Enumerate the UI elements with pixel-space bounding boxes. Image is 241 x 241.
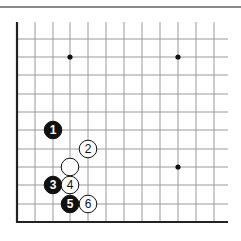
white-stone bbox=[61, 158, 79, 176]
star-point bbox=[175, 54, 180, 59]
black-stone: 1 bbox=[44, 121, 62, 139]
move-number: 6 bbox=[85, 197, 92, 211]
star-point bbox=[175, 164, 180, 169]
white-stone: 2 bbox=[79, 140, 97, 158]
move-number: 5 bbox=[67, 197, 74, 211]
white-stone: 6 bbox=[79, 195, 97, 213]
star-point bbox=[67, 54, 72, 59]
move-number: 3 bbox=[50, 178, 57, 192]
go-board: 123456 bbox=[0, 0, 241, 241]
move-number: 2 bbox=[85, 142, 92, 156]
white-stone: 4 bbox=[61, 176, 79, 194]
move-number: 1 bbox=[50, 123, 57, 137]
black-stone: 3 bbox=[44, 176, 62, 194]
move-number: 4 bbox=[67, 178, 74, 192]
black-stone: 5 bbox=[61, 195, 79, 213]
stone-circle bbox=[61, 158, 79, 176]
